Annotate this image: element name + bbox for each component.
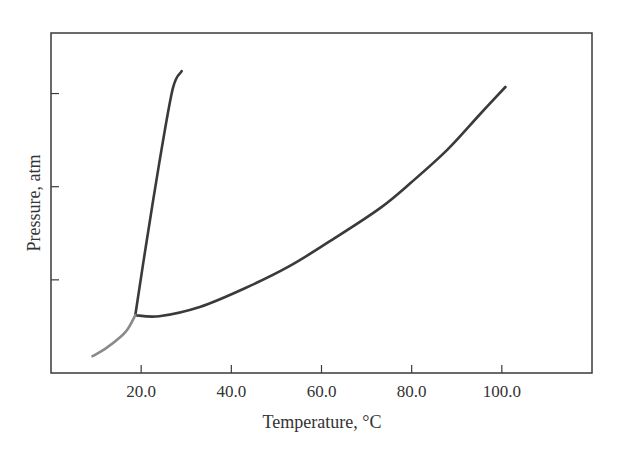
x-tick-label: 100.0 — [483, 382, 521, 401]
x-axis-ticks: 20.040.060.080.0100.0 — [126, 365, 521, 401]
y-axis-ticks — [51, 94, 59, 280]
x-tick-label: 80.0 — [397, 382, 427, 401]
low-temperature-curve-line — [93, 315, 136, 356]
x-tick-label: 60.0 — [307, 382, 337, 401]
x-axis-title: Temperature, °C — [263, 412, 382, 432]
x-tick-label: 20.0 — [126, 382, 156, 401]
long-boundary-line — [135, 87, 505, 317]
y-axis-title: Pressure, atm — [24, 155, 44, 252]
phase-diagram-chart: 20.040.060.080.0100.0 Temperature, °C Pr… — [0, 0, 619, 457]
steep-boundary-line — [135, 71, 181, 315]
data-series — [93, 71, 506, 356]
x-tick-label: 40.0 — [216, 382, 246, 401]
